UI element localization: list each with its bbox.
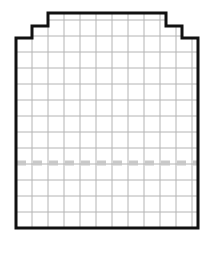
figure-container	[0, 0, 214, 258]
stepped-grid-figure	[0, 0, 214, 258]
